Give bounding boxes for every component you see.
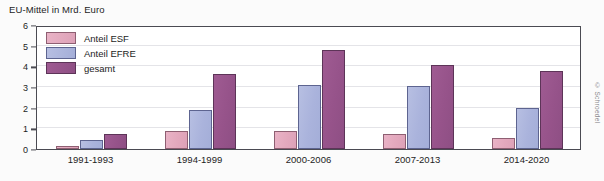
- legend-swatch-gesamt: [46, 62, 76, 74]
- bar-gesamt: [540, 71, 563, 149]
- chart-title: EU-Mittel in Mrd. Euro: [9, 4, 105, 15]
- bar-esf: [56, 146, 79, 150]
- x-tick-label: 2014-2020: [504, 154, 549, 165]
- y-tick-label: 0: [6, 145, 28, 155]
- bar-esf: [492, 138, 515, 149]
- bar-efre: [298, 85, 321, 149]
- bar-efre: [516, 108, 539, 149]
- legend-item-efre: Anteil EFRE: [46, 47, 136, 59]
- y-tick-label: 6: [6, 21, 28, 31]
- x-tick-label: 2007-2013: [395, 154, 440, 165]
- y-tick-label: 4: [6, 62, 28, 72]
- bar-gesamt: [431, 65, 454, 149]
- legend-swatch-efre: [46, 47, 76, 59]
- y-tick-label: 5: [6, 42, 28, 52]
- legend-label-efre: Anteil EFRE: [84, 48, 136, 59]
- bar-gesamt: [322, 50, 345, 149]
- chart-figure: EU-Mittel in Mrd. Euro 0123456 1991-1993…: [0, 0, 604, 181]
- y-tick-label: 2: [6, 104, 28, 114]
- x-tick-label: 1991-1993: [68, 154, 113, 165]
- x-tick-label: 1994-1999: [177, 154, 222, 165]
- x-axis: 1991-19931994-19992000-20062007-20132014…: [36, 152, 581, 172]
- y-tick-label: 3: [6, 83, 28, 93]
- y-axis: 0123456: [0, 26, 36, 150]
- bar-gesamt: [104, 134, 127, 149]
- bar-esf: [383, 134, 406, 150]
- legend-label-esf: Anteil ESF: [84, 33, 129, 44]
- copyright-credit: © Schroedel: [594, 82, 601, 123]
- legend-item-gesamt: gesamt: [46, 62, 136, 74]
- bar-efre: [407, 86, 430, 149]
- legend-item-esf: Anteil ESF: [46, 32, 136, 44]
- chart-legend: Anteil ESF Anteil EFRE gesamt: [46, 32, 136, 74]
- legend-swatch-esf: [46, 32, 76, 44]
- bar-esf: [165, 131, 188, 149]
- bar-esf: [274, 131, 297, 149]
- legend-label-gesamt: gesamt: [84, 63, 115, 74]
- bar-gesamt: [213, 74, 236, 149]
- bar-efre: [80, 140, 103, 149]
- x-tick-label: 2000-2006: [286, 154, 331, 165]
- y-tick-label: 1: [6, 124, 28, 134]
- bar-efre: [189, 110, 212, 149]
